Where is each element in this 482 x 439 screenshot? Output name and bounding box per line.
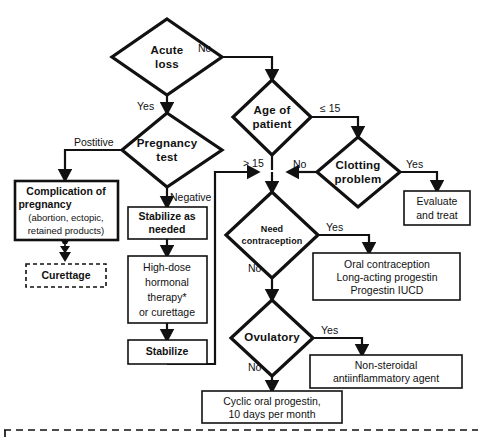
- contraception-options-label-3: Progestin IUCD: [351, 284, 424, 296]
- acute-loss-label-1: Acute: [151, 44, 184, 56]
- flowchart-canvas: Acute loss Pregnancy test Age of patient…: [0, 0, 482, 439]
- node-stabilize-as-needed: Stabilize as needed: [128, 207, 207, 239]
- label-pregnancy-negative: Negative: [170, 191, 212, 203]
- node-cyclic-oral-progestin: Cyclic oral progestin, 10 days per month: [202, 391, 342, 423]
- node-clotting-problem: Clotting problem: [317, 137, 400, 207]
- edge-ovulatory-yes: [313, 338, 362, 355]
- need-contraception-label-2: contraception: [242, 236, 303, 246]
- nsaid-label-1: Non-steroidal: [355, 359, 417, 371]
- stabilize-as-needed-label-2: needed: [149, 223, 186, 235]
- complication-label-2: pregnancy: [18, 198, 71, 210]
- complication-label-3: (abortion, ectopic,: [28, 212, 104, 223]
- label-contraception-no: No: [248, 262, 262, 274]
- edge-acuteloss-no: [222, 57, 272, 80]
- acute-loss-label-2: loss: [155, 58, 179, 70]
- age-of-patient-label-2: patient: [252, 118, 291, 130]
- contraception-options-label-2: Long-acting progestin: [337, 271, 438, 283]
- age-of-patient-label-1: Age of: [254, 104, 291, 116]
- edge-contraception-yes: [318, 235, 369, 253]
- node-complication-of-pregnancy: Complication of pregnancy (abortion, ect…: [15, 181, 118, 240]
- node-age-of-patient: Age of patient: [233, 80, 311, 155]
- high-dose-label-2: hormonal: [145, 276, 189, 288]
- edge-clotting-yes: [400, 172, 437, 191]
- label-ovulatory-no: No: [248, 361, 262, 373]
- edge-pregnancy-positive: [65, 150, 122, 180]
- complication-label-1: Complication of: [26, 185, 106, 197]
- node-need-contraception: Need contraception: [226, 192, 318, 278]
- nsaid-label-2: antiinflammatory agent: [333, 372, 439, 384]
- cyclic-progestin-label-1: Cyclic oral progestin,: [223, 395, 320, 407]
- node-high-dose-hormonal-therapy: High-dose hormonal therapy* or curettage: [128, 256, 207, 323]
- node-nsaid: Non-steroidal antiinflammatory agent: [310, 355, 462, 388]
- need-contraception-label-1: Need: [261, 224, 283, 234]
- edge-complication-curettage-jagged: [59, 240, 71, 262]
- curettage-label: Curettage: [41, 269, 90, 281]
- contraception-options-label-1: Oral contraception: [344, 258, 430, 270]
- node-curettage: Curettage: [26, 264, 106, 287]
- evaluate-label-2: and treat: [416, 209, 458, 221]
- node-stabilize: Stabilize: [128, 340, 207, 364]
- high-dose-label-3: therapy*: [147, 291, 186, 303]
- flowchart-page: Acute loss Pregnancy test Age of patient…: [0, 0, 482, 439]
- pregnancy-test-label-2: test: [156, 151, 177, 163]
- node-contraception-options: Oral contraception Long-acting progestin…: [313, 253, 460, 300]
- label-age-le-15: ≤ 15: [320, 102, 341, 114]
- ovulatory-label-1: Ovulatory: [244, 331, 300, 343]
- label-acuteloss-no: No: [198, 42, 212, 54]
- label-clotting-yes: Yes: [406, 158, 423, 170]
- high-dose-label-1: High-dose: [143, 261, 191, 273]
- label-age-gt-15: > 15: [243, 157, 264, 169]
- high-dose-label-4: or curettage: [139, 306, 195, 318]
- label-pregnancy-positive: Postitive: [74, 136, 114, 148]
- node-acute-loss: Acute loss: [112, 19, 222, 95]
- complication-label-4: retained products): [28, 225, 105, 236]
- node-evaluate-and-treat: Evaluate and treat: [404, 191, 470, 225]
- label-clotting-no: No: [293, 158, 307, 170]
- stabilize-label: Stabilize: [146, 345, 189, 357]
- node-ovulatory: Ovulatory: [231, 300, 313, 376]
- clotting-problem-label-1: Clotting: [335, 159, 380, 171]
- node-pregnancy-test: Pregnancy test: [122, 113, 222, 187]
- edge-age-le15: [311, 117, 358, 137]
- cyclic-progestin-label-2: 10 days per month: [229, 408, 316, 420]
- evaluate-label-1: Evaluate: [417, 195, 458, 207]
- stabilize-as-needed-label-1: Stabilize as: [138, 210, 195, 222]
- clotting-problem-label-2: problem: [335, 173, 382, 185]
- label-ovulatory-yes: Yes: [321, 324, 338, 336]
- label-acuteloss-yes: Yes: [137, 100, 154, 112]
- pregnancy-test-label-1: Pregnancy: [137, 137, 198, 149]
- label-contraception-yes: Yes: [326, 221, 343, 233]
